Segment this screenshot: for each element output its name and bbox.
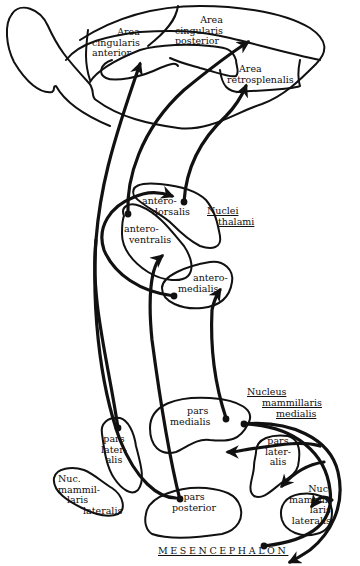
label-line: Nuc.: [58, 474, 122, 485]
label-line: alis: [265, 457, 291, 468]
label-line: laris: [58, 495, 122, 506]
label-line: lateralis: [58, 506, 122, 517]
label-line: Area: [227, 64, 294, 75]
title-nuclei-thalami: Nuclei thalami: [207, 205, 254, 227]
label-line: ventralis: [124, 235, 171, 246]
label-line: lateralis: [289, 516, 331, 527]
label-line: alis: [101, 455, 127, 466]
label-mesencephalon: MESENCEPHALON: [158, 545, 288, 556]
label-pars-posterior: pars posterior: [172, 492, 216, 513]
title-nucleus-mammillaris-medialis: Nucleus mammillaris medialis: [247, 386, 322, 419]
label-line: pars: [265, 436, 291, 447]
label-area-cingularis-posterior: Area cingularis posterior: [175, 15, 223, 47]
title-line: mammillaris: [247, 397, 322, 408]
label-line: antero-: [142, 196, 190, 207]
label-line: antero-: [178, 273, 228, 284]
label-area-cingularis-anterior: Area cingularis anterior: [92, 27, 140, 59]
label-line: posterior: [175, 36, 223, 47]
label-nuc-mammillaris-lateralis-left: Nuc. mammil- laris lateralis: [58, 474, 122, 516]
label-line: medialis: [178, 284, 228, 295]
label-line: retrosplenalis: [227, 75, 294, 86]
label-line: laris: [289, 505, 331, 516]
label-line: dorsalis: [142, 207, 190, 218]
label-pars-lateralis-left: pars later- alis: [101, 434, 127, 466]
label-line: Area: [92, 27, 140, 38]
label-line: medialis: [170, 417, 210, 428]
label-nuc-mammillaris-lateralis-right: Nuc. mammil- laris lateralis: [289, 484, 331, 526]
label-anteromedialis: antero- medialis: [178, 273, 228, 294]
label-area-retrosplenalis: Area retrosplenalis: [227, 64, 294, 85]
label-pars-medialis: pars medialis: [170, 406, 210, 427]
label-line: anterior: [92, 48, 140, 59]
title-line: Nucleus: [247, 386, 322, 397]
label-line: Area: [175, 15, 223, 26]
label-anterodorsalis: antero- dorsalis: [142, 196, 190, 217]
label-line: Nuc.: [289, 484, 331, 495]
label-line: pars: [172, 492, 216, 503]
label-anteroventralis: antero- ventralis: [124, 224, 171, 245]
label-line: pars: [101, 434, 127, 445]
title-line: Nuclei: [207, 205, 254, 216]
label-line: posterior: [172, 503, 216, 514]
label-line: pars: [170, 406, 210, 417]
label-pars-lateralis-right: pars later- alis: [265, 436, 291, 468]
title-line: medialis: [247, 408, 322, 419]
label-line: antero-: [124, 224, 171, 235]
title-line: thalami: [207, 216, 254, 227]
